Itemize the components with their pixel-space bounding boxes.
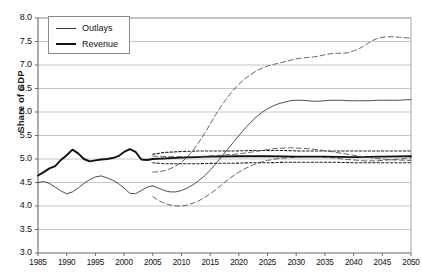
legend-item: Outlays xyxy=(56,23,113,33)
legend-item: Revenue xyxy=(56,39,118,49)
y-tick-label: 6.5 xyxy=(6,83,32,93)
x-tick-label: 1985 xyxy=(23,258,53,267)
x-tick-label: 2040 xyxy=(339,258,369,267)
series-line xyxy=(153,157,411,206)
y-tick-label: 7.5 xyxy=(6,36,32,46)
y-tick-label: 4.0 xyxy=(6,200,32,210)
y-tick-label: 3.0 xyxy=(6,247,32,257)
series-line xyxy=(38,149,153,175)
x-tick-label: 2010 xyxy=(166,258,196,267)
series-line xyxy=(153,100,411,192)
series-line xyxy=(153,37,411,172)
y-tick-label: 5.0 xyxy=(6,153,32,163)
x-tick-label: 2025 xyxy=(253,258,283,267)
series-line xyxy=(153,162,411,163)
x-tick-label: 2020 xyxy=(224,258,254,267)
x-tick-label: 1995 xyxy=(80,258,110,267)
legend-swatch xyxy=(56,28,76,29)
x-tick-label: 2005 xyxy=(138,258,168,267)
x-tick-label: 2050 xyxy=(396,258,422,267)
y-tick-label: 5.5 xyxy=(6,130,32,140)
legend-swatch xyxy=(56,43,76,45)
y-tick-label: 4.5 xyxy=(6,177,32,187)
x-tick-label: 2045 xyxy=(367,258,397,267)
y-tick-label: 3.5 xyxy=(6,224,32,234)
y-tick-label: 8.0 xyxy=(6,12,32,22)
x-tick-label: 2000 xyxy=(109,258,139,267)
x-tick-label: 2015 xyxy=(195,258,225,267)
legend-label: Revenue xyxy=(82,39,118,49)
y-tick-label: 7.0 xyxy=(6,59,32,69)
x-tick-label: 2035 xyxy=(310,258,340,267)
x-tick-label: 2030 xyxy=(281,258,311,267)
chart-legend: OutlaysRevenue xyxy=(48,16,130,54)
series-line xyxy=(38,176,153,194)
legend-label: Outlays xyxy=(82,23,113,33)
chart-container: Share of GDP OutlaysRevenue 3.03.54.04.5… xyxy=(0,0,422,279)
x-tick-label: 1990 xyxy=(52,258,82,267)
y-tick-label: 6.0 xyxy=(6,106,32,116)
